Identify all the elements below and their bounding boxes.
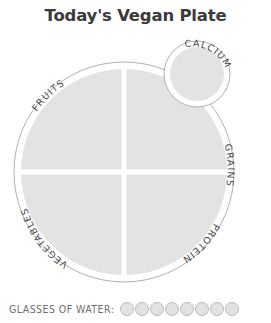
- water-glass-list: [120, 302, 239, 316]
- glasses-of-water-row: GLASSES OF WATER:: [9, 295, 271, 323]
- glasses-of-water-label: GLASSES OF WATER:: [9, 303, 114, 315]
- water-glass-checkbox[interactable]: [195, 302, 209, 316]
- vegan-plate-figure: FRUITS GRAINS VEGETABLES PROTEIN CALCIUM: [0, 0, 271, 295]
- water-glass-checkbox[interactable]: [165, 302, 179, 316]
- water-glass-checkbox[interactable]: [180, 302, 194, 316]
- water-glass-checkbox[interactable]: [150, 302, 164, 316]
- water-glass-checkbox[interactable]: [135, 302, 149, 316]
- water-glass-checkbox[interactable]: [210, 302, 224, 316]
- plate-quadrant-fruits[interactable]: [21, 69, 121, 169]
- water-glass-checkbox[interactable]: [120, 302, 134, 316]
- water-glass-checkbox[interactable]: [225, 302, 239, 316]
